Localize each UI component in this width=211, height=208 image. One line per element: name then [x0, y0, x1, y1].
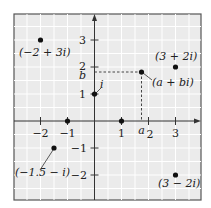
a-label: a: [138, 124, 145, 137]
point-i: [92, 91, 97, 96]
x-tick-label: −1: [59, 127, 75, 140]
x-tick-label: 1: [118, 127, 125, 140]
point-label: i: [100, 78, 104, 91]
point-3-plus-2i: [173, 64, 178, 69]
x-tick-label: −2: [32, 127, 48, 140]
point-a-plus-bi: [139, 69, 144, 74]
point-neg1.5-minus-i: [51, 145, 56, 150]
point-label: (−1.5 − i): [15, 166, 70, 179]
y-tick-label: 3: [79, 34, 86, 47]
x-tick-label: 2: [147, 128, 154, 141]
point-label: (3 + 2i): [155, 50, 197, 63]
point-1: [119, 118, 124, 123]
point-label: (3 − 2i): [158, 177, 200, 190]
complex-plane-diagram: −2 −1 1 2 3 a 3 2 1 −1 −2 b (−2 + 3i) (3…: [0, 0, 211, 208]
point-label: (a + bi): [152, 76, 194, 89]
b-label: b: [79, 69, 86, 82]
point-neg1: [65, 118, 70, 123]
y-tick-label: −1: [71, 142, 87, 155]
point-label: (−2 + 3i): [19, 46, 71, 59]
y-tick-label: −2: [71, 169, 87, 182]
point-neg2-plus-3i: [38, 37, 43, 42]
y-tick-label: 1: [79, 88, 86, 101]
x-tick-label: 3: [172, 127, 179, 140]
